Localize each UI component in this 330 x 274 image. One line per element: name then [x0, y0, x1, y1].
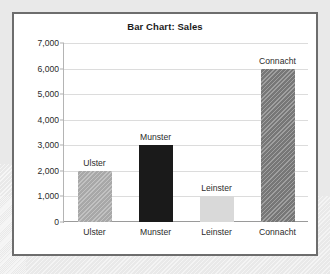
bar-connacht[interactable]: Connacht: [261, 69, 295, 222]
y-axis-tick-label: 1,000: [37, 191, 59, 201]
y-axis-tick-label: 2,000: [37, 166, 59, 176]
chart-title: Bar Chart: Sales: [16, 21, 314, 32]
x-axis-label-leinster: Leinster: [201, 227, 232, 237]
bar-leinster[interactable]: Leinster: [200, 196, 234, 222]
y-axis-tick-label: 6,000: [37, 64, 59, 74]
bar-munster[interactable]: Munster: [139, 145, 173, 222]
y-axis-tick-label: 5,000: [37, 89, 59, 99]
bar-ulster[interactable]: Ulster: [78, 171, 112, 222]
bar-data-label: Ulster: [83, 158, 105, 168]
chart-plot-container: Bar Chart: Sales 01,0002,0003,0004,0005,…: [16, 16, 314, 252]
bar-data-label: Leinster: [201, 183, 232, 193]
x-axis-label-connacht: Connacht: [259, 227, 296, 237]
plot-area: 01,0002,0003,0004,0005,0006,0007,000 Uls…: [64, 43, 308, 222]
bar-data-label: Munster: [140, 132, 171, 142]
x-axis-label-munster: Munster: [140, 227, 171, 237]
x-axis-labels: UlsterMunsterLeinsterConnacht: [64, 227, 308, 247]
y-axis-tick-label: 4,000: [37, 115, 59, 125]
x-axis-label-ulster: Ulster: [83, 227, 105, 237]
y-axis-tick-label: 3,000: [37, 140, 59, 150]
bar-data-label: Connacht: [259, 56, 296, 66]
screenshot-canvas: Bar Chart: Sales 01,0002,0003,0004,0005,…: [0, 0, 330, 274]
bar-slot: Connacht: [247, 43, 308, 222]
y-axis-tick-label: 7,000: [37, 38, 59, 48]
y-axis-tick-label: 0: [54, 217, 59, 227]
chart-panel: Bar Chart: Sales 01,0002,0003,0004,0005,…: [12, 12, 318, 256]
bar-slot: Munster: [125, 43, 186, 222]
bar-slot: Ulster: [64, 43, 125, 222]
bar-slot: Leinster: [186, 43, 247, 222]
